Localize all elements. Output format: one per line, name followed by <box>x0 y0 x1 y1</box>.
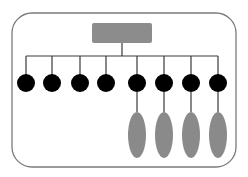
leaf-nodes <box>128 112 227 158</box>
child-node-circle <box>155 74 173 92</box>
child-node-circle <box>182 74 200 92</box>
leaf-node-ellipse <box>182 112 200 158</box>
child-nodes <box>17 74 227 92</box>
hierarchy-diagram <box>0 0 248 177</box>
leaf-node-ellipse <box>155 112 173 158</box>
child-node-circle <box>97 74 115 92</box>
leaf-node-ellipse <box>128 112 146 158</box>
child-node-circle <box>71 74 89 92</box>
leaf-node-ellipse <box>209 112 227 158</box>
child-node-circle <box>17 74 35 92</box>
child-node-circle <box>43 74 61 92</box>
root-node <box>92 23 152 43</box>
child-node-circle <box>128 74 146 92</box>
child-node-circle <box>209 74 227 92</box>
